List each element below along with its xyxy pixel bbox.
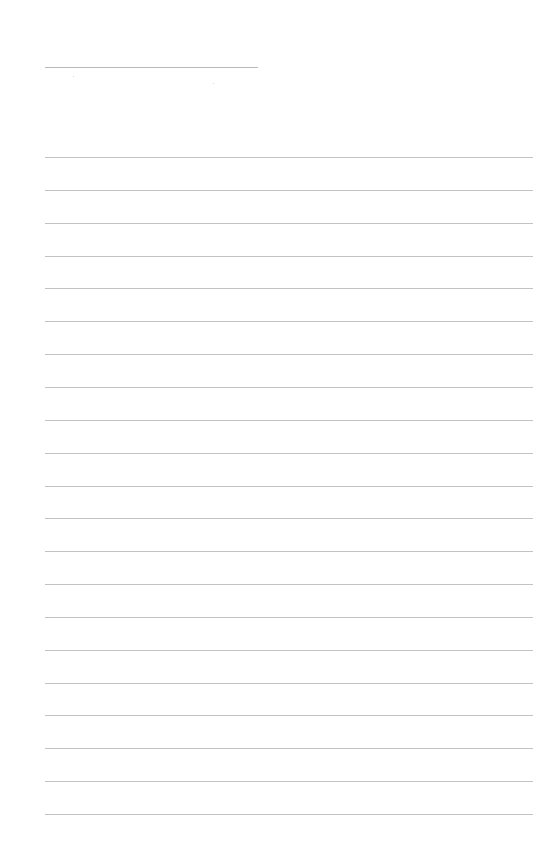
ruled-line [45, 256, 533, 257]
ruled-line [45, 453, 533, 454]
paper-speck [73, 76, 74, 77]
header-title-line [45, 67, 258, 68]
ruled-line [45, 486, 533, 487]
ruled-notepad-page [0, 0, 536, 866]
ruled-line [45, 288, 533, 289]
ruled-line [45, 584, 533, 585]
ruled-line [45, 321, 533, 322]
ruled-line [45, 650, 533, 651]
ruled-line [45, 354, 533, 355]
ruled-line [45, 157, 533, 158]
ruled-line [45, 190, 533, 191]
ruled-line [45, 781, 533, 782]
ruled-line [45, 387, 533, 388]
ruled-line [45, 748, 533, 749]
ruled-line [45, 518, 533, 519]
ruled-line [45, 617, 533, 618]
ruled-line [45, 420, 533, 421]
ruled-line [45, 223, 533, 224]
paper-speck [213, 83, 214, 84]
ruled-line [45, 814, 533, 815]
ruled-line [45, 683, 533, 684]
ruled-line [45, 551, 533, 552]
ruled-line [45, 715, 533, 716]
